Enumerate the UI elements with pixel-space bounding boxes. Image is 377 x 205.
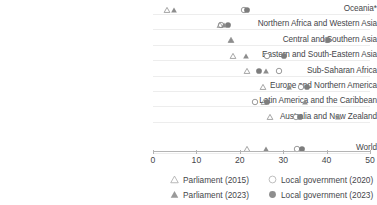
legend-label: Parliament (2023) xyxy=(183,190,249,200)
row-baseline xyxy=(153,76,370,77)
x-tick xyxy=(327,150,328,154)
data-point-circle-filled[interactable] xyxy=(296,114,303,121)
x-tick xyxy=(240,150,241,154)
data-point-circle-filled[interactable] xyxy=(281,52,288,59)
data-point-circle-open[interactable] xyxy=(251,98,258,105)
data-point-triangle-open[interactable] xyxy=(163,6,170,13)
data-point-triangle-filled[interactable] xyxy=(301,98,308,105)
data-point-triangle-filled[interactable] xyxy=(262,68,269,75)
data-point-triangle-filled[interactable] xyxy=(334,114,341,121)
legend-item-local-government-2020[interactable]: Local government (2020) xyxy=(266,174,373,186)
data-point-triangle-filled[interactable] xyxy=(221,21,228,28)
data-point-circle-open[interactable] xyxy=(275,68,282,75)
triangle-filled-icon xyxy=(168,189,180,201)
x-tick xyxy=(283,150,284,154)
data-point-triangle-filled[interactable] xyxy=(285,83,292,90)
legend-label: Local government (2023) xyxy=(281,190,373,200)
plot-area xyxy=(153,0,370,152)
row-baseline xyxy=(153,29,370,30)
circle-filled-icon xyxy=(266,189,278,201)
data-point-circle-filled[interactable] xyxy=(264,98,271,105)
x-tick-label: 20 xyxy=(235,155,245,165)
x-tick xyxy=(153,150,154,154)
data-point-triangle-open[interactable] xyxy=(229,52,236,59)
legend-item-parliament-2015[interactable]: Parliament (2015) xyxy=(168,174,266,186)
data-point-triangle-filled[interactable] xyxy=(242,52,249,59)
legend-item-parliament-2023[interactable]: Parliament (2023) xyxy=(168,189,266,201)
data-point-triangle-open[interactable] xyxy=(259,83,266,90)
x-tick-label: 30 xyxy=(278,155,288,165)
data-point-triangle-open[interactable] xyxy=(244,68,251,75)
chart-legend: Parliament (2015) Local government (2020… xyxy=(168,172,377,202)
x-tick xyxy=(196,150,197,154)
x-tick-label: 50 xyxy=(365,155,375,165)
gender-representation-dot-chart: Oceania*Northern Africa and Western Asia… xyxy=(0,0,377,205)
data-point-circle-filled[interactable] xyxy=(304,83,311,90)
row-baseline xyxy=(153,122,370,123)
legend-label: Local government (2020) xyxy=(281,175,373,185)
row-baseline xyxy=(153,106,370,107)
legend-label: Parliament (2015) xyxy=(183,175,249,185)
circle-open-icon xyxy=(266,174,278,186)
x-axis-line xyxy=(153,151,370,152)
data-point-circle-filled[interactable] xyxy=(244,6,251,13)
legend-item-local-government-2023[interactable]: Local government (2023) xyxy=(266,189,373,201)
data-point-circle-open[interactable] xyxy=(264,52,271,59)
data-point-circle-filled[interactable] xyxy=(255,68,262,75)
data-point-triangle-filled[interactable] xyxy=(170,6,177,13)
data-point-triangle-filled[interactable] xyxy=(228,37,235,44)
data-point-circle-filled[interactable] xyxy=(324,37,331,44)
row-baseline xyxy=(153,153,370,154)
row-baseline xyxy=(153,60,370,61)
legend-row-2: Parliament (2023) Local government (2023… xyxy=(168,187,377,202)
x-tick-label: 0 xyxy=(151,155,156,165)
data-point-triangle-open[interactable] xyxy=(266,114,273,121)
row-baseline xyxy=(153,45,370,46)
x-tick-label: 10 xyxy=(192,155,202,165)
row-baseline xyxy=(153,14,370,15)
x-tick xyxy=(370,150,371,154)
row-baseline xyxy=(153,91,370,92)
legend-row-1: Parliament (2015) Local government (2020… xyxy=(168,172,377,187)
triangle-open-icon xyxy=(168,174,180,186)
x-tick-label: 40 xyxy=(322,155,332,165)
